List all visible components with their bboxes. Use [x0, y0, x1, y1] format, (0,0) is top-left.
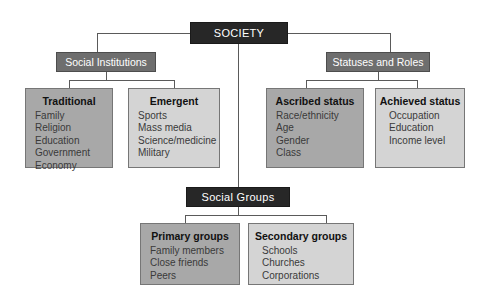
- node-traditional-title: Traditional: [26, 95, 112, 107]
- connector-statuses-left-drop: [306, 80, 307, 88]
- node-society[interactable]: SOCIETY: [190, 22, 288, 44]
- list-item: Race/ethnicity: [276, 110, 363, 122]
- list-item: Close friends: [150, 257, 239, 269]
- node-primary-groups-title: Primary groups: [141, 230, 239, 242]
- connector-root-left-drop: [97, 33, 98, 52]
- list-item: Corporations: [262, 270, 353, 282]
- list-item: Mass media: [138, 122, 219, 134]
- connector-groups-right-drop: [326, 215, 327, 223]
- node-emergent-title: Emergent: [129, 95, 219, 107]
- node-secondary-groups-items: Schools Churches Corporations: [249, 245, 353, 282]
- list-item: Class: [276, 147, 363, 159]
- list-item: Government: [35, 147, 112, 159]
- list-item: Education: [389, 122, 464, 134]
- node-society-label: SOCIETY: [214, 27, 264, 39]
- connector-institutions-stem: [106, 72, 107, 80]
- list-item: Family members: [150, 245, 239, 257]
- connector-institutions-bar: [69, 80, 174, 81]
- list-item: Education: [35, 135, 112, 147]
- node-secondary-groups[interactable]: Secondary groups Schools Churches Corpor…: [248, 223, 354, 285]
- society-hierarchy-diagram: SOCIETY Social Institutions Statuses and…: [0, 0, 483, 303]
- node-primary-groups[interactable]: Primary groups Family members Close frie…: [140, 223, 240, 285]
- list-item: Military: [138, 147, 219, 159]
- list-item: Sports: [138, 110, 219, 122]
- node-statuses-and-roles-label: Statuses and Roles: [332, 56, 423, 68]
- node-social-groups[interactable]: Social Groups: [186, 187, 290, 207]
- node-achieved-status[interactable]: Achieved status Occupation Education Inc…: [375, 88, 465, 168]
- list-item: Family: [35, 110, 112, 122]
- list-item: Religion: [35, 122, 112, 134]
- node-achieved-status-items: Occupation Education Income level: [376, 110, 464, 147]
- node-secondary-groups-title: Secondary groups: [249, 230, 353, 242]
- node-social-institutions[interactable]: Social Institutions: [56, 52, 156, 72]
- connector-groups-left-drop: [185, 215, 186, 223]
- list-item: Churches: [262, 257, 353, 269]
- node-traditional-items: Family Religion Education Government Eco…: [26, 110, 112, 172]
- connector-statuses-bar: [306, 80, 417, 81]
- node-traditional[interactable]: Traditional Family Religion Education Go…: [25, 88, 113, 168]
- list-item: Age: [276, 122, 363, 134]
- node-ascribed-status-title: Ascribed status: [267, 95, 363, 107]
- list-item: Economy: [35, 160, 112, 172]
- connector-statuses-right-drop: [417, 80, 418, 88]
- node-achieved-status-title: Achieved status: [376, 95, 464, 107]
- connector-root-right-horizontal: [288, 33, 390, 34]
- connector-groups-bar: [185, 215, 326, 216]
- connector-institutions-right-drop: [174, 80, 175, 88]
- node-primary-groups-items: Family members Close friends Peers: [141, 245, 239, 282]
- list-item: Gender: [276, 135, 363, 147]
- list-item: Income level: [389, 135, 464, 147]
- node-social-institutions-label: Social Institutions: [65, 56, 147, 68]
- list-item: Occupation: [389, 110, 464, 122]
- node-emergent[interactable]: Emergent Sports Mass media Science/medic…: [128, 88, 220, 168]
- node-social-groups-label: Social Groups: [202, 191, 275, 203]
- node-ascribed-status[interactable]: Ascribed status Race/ethnicity Age Gende…: [266, 88, 364, 168]
- connector-root-center-drop: [238, 44, 239, 188]
- connector-root-left-horizontal: [97, 33, 190, 34]
- connector-groups-stem: [238, 207, 239, 215]
- list-item: Peers: [150, 270, 239, 282]
- node-statuses-and-roles[interactable]: Statuses and Roles: [326, 52, 430, 72]
- connector-institutions-left-drop: [69, 80, 70, 88]
- list-item: Science/medicine: [138, 135, 219, 147]
- connector-statuses-stem: [378, 72, 379, 80]
- connector-root-right-drop: [390, 33, 391, 52]
- node-emergent-items: Sports Mass media Science/medicine Milit…: [129, 110, 219, 160]
- node-ascribed-status-items: Race/ethnicity Age Gender Class: [267, 110, 363, 160]
- list-item: Schools: [262, 245, 353, 257]
